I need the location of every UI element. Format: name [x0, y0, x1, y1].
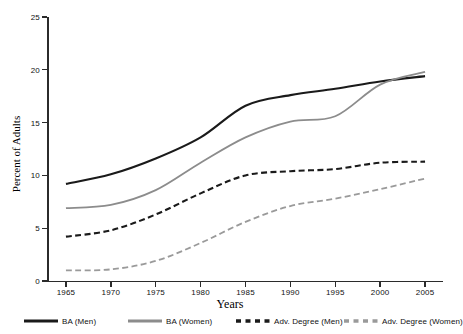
legend-label: BA (Women): [166, 317, 212, 326]
y-axis-title: Percent of Adults: [10, 89, 22, 219]
legend-label: Adv. Degree (Women): [382, 317, 463, 326]
legend-item-0[interactable]: BA (Men): [24, 313, 96, 329]
legend-swatch-icon: [236, 313, 270, 329]
legend-swatch-icon: [24, 313, 58, 329]
legend-item-1[interactable]: BA (Women): [128, 313, 212, 329]
series-line-1: [66, 72, 425, 208]
legend-label: Adv. Degree (Men): [274, 317, 343, 326]
legend-item-2[interactable]: Adv. Degree (Men): [236, 313, 343, 329]
legend-item-3[interactable]: Adv. Degree (Women): [344, 313, 463, 329]
x-axis-title: Years: [0, 297, 460, 312]
legend-swatch-icon: [128, 313, 162, 329]
legend-label: BA (Men): [62, 317, 96, 326]
chart-legend: BA (Men)BA (Women)Adv. Degree (Men)Adv. …: [0, 313, 460, 331]
series-line-3: [66, 179, 425, 271]
series-line-0: [66, 76, 425, 184]
series-line-2: [66, 162, 425, 237]
legend-swatch-icon: [344, 313, 378, 329]
